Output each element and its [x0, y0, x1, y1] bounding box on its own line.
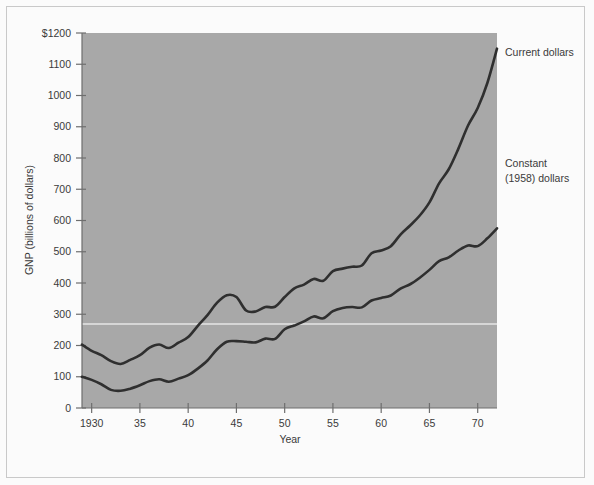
y-tick-label: 800 — [53, 152, 71, 164]
x-tick-label: 55 — [327, 417, 339, 429]
x-tick-label: 1930 — [80, 417, 104, 429]
y-tick-label: 1000 — [48, 89, 72, 101]
x-tick-label: 50 — [279, 417, 291, 429]
x-tick-label: 60 — [375, 417, 387, 429]
y-tick-label: 100 — [53, 370, 71, 382]
y-tick-label: 500 — [53, 245, 71, 257]
x-axis-title: Year — [279, 433, 301, 445]
y-tick-label: 300 — [53, 308, 71, 320]
y-tick-label: 0 — [65, 402, 71, 414]
x-tick-label: 70 — [472, 417, 484, 429]
y-tick-label: 1100 — [48, 58, 71, 70]
x-tick-label: 35 — [134, 417, 146, 429]
x-tick-label: 40 — [182, 417, 194, 429]
x-tick-label: 65 — [424, 417, 436, 429]
y-tick-label: 700 — [53, 183, 71, 195]
y-tick-label: 400 — [53, 277, 71, 289]
y-axis-ticks: 010020030040050060070080090010001100$120… — [42, 27, 86, 414]
gnp-chart-figure: 010020030040050060070080090010001100$120… — [0, 0, 594, 485]
series-label-constant-dollars-line1: Constant — [505, 157, 547, 169]
series-label-constant-dollars-line2: (1958) dollars — [505, 172, 569, 184]
y-tick-label: 200 — [53, 339, 71, 351]
chart-canvas: 010020030040050060070080090010001100$120… — [0, 0, 594, 485]
x-tick-label: 45 — [231, 417, 243, 429]
y-tick-label: 900 — [53, 120, 71, 132]
y-tick-label: $1200 — [42, 27, 71, 39]
y-axis-title: GNP (billions of dollars) — [23, 165, 35, 275]
series-label-current-dollars: Current dollars — [505, 46, 574, 58]
y-tick-label: 600 — [53, 214, 71, 226]
